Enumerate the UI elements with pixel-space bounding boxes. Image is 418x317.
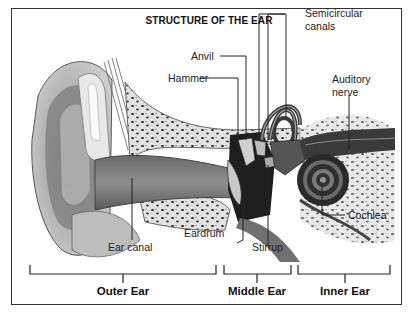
label-cochlea: Cochlea <box>348 209 387 221</box>
label-hammer: Hammer <box>168 72 208 84</box>
section-middle-ear: Middle Ear <box>212 285 302 297</box>
section-brackets <box>30 265 390 283</box>
section-outer-ear: Outer Ear <box>73 285 173 297</box>
ear-illustration <box>0 0 418 317</box>
label-ear-canal: Ear canal <box>108 241 152 253</box>
label-semicircular-1: Semicircular <box>305 7 363 19</box>
label-semicircular-2: canals <box>305 20 335 32</box>
section-inner-ear: Inner Ear <box>305 285 385 297</box>
label-auditory-2: nerve <box>332 86 358 98</box>
label-anvil: Anvil <box>191 50 214 62</box>
label-auditory-1: Auditory <box>332 73 371 85</box>
cochlea <box>297 154 349 206</box>
label-eardrum: Eardrum <box>184 227 224 239</box>
label-stirrup: Stirrup <box>252 241 283 253</box>
